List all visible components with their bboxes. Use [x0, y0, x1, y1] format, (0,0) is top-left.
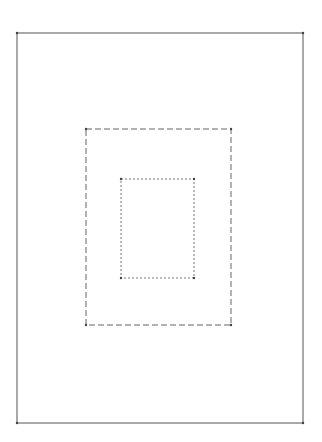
middle-dashed-rectangle: [86, 129, 231, 325]
outer-solid-rectangle: [17, 33, 303, 423]
corner-dots: [16, 32, 304, 424]
nested-rectangles-diagram: [0, 0, 322, 442]
inner-dotted-rectangle: [121, 179, 194, 278]
